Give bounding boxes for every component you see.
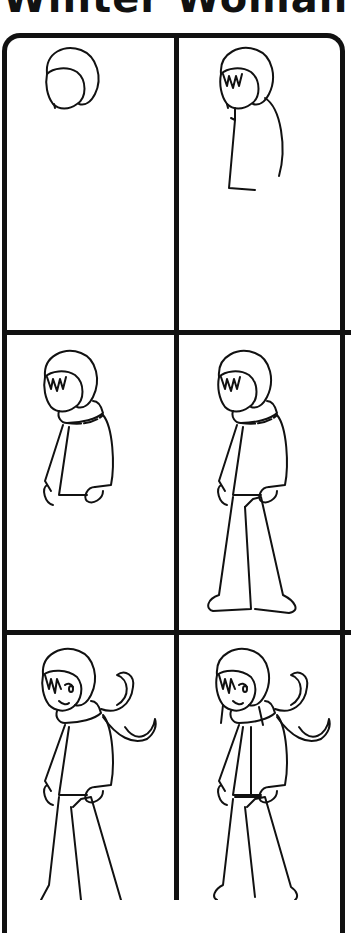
panel-step-5 (7, 635, 174, 900)
panel-step-2 (179, 38, 345, 330)
page-title: Winter Woman (0, 0, 351, 18)
panel-step-3 (7, 335, 174, 630)
panel-step-6 (179, 635, 345, 900)
panel-step-1 (7, 38, 174, 330)
panel-step-4 (179, 335, 345, 630)
